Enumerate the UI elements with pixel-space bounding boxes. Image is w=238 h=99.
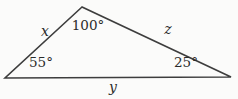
angle-label-top: 100° (72, 19, 105, 33)
side-label-z: z (164, 22, 171, 36)
triangle-outline-svg (0, 0, 238, 99)
triangle-figure: 100° 55° 25° x z y (0, 0, 238, 99)
angle-label-bottom-left: 55° (29, 56, 53, 70)
side-label-x: x (41, 24, 49, 38)
side-label-y: y (109, 80, 117, 94)
angle-label-bottom-right: 25° (174, 56, 198, 70)
